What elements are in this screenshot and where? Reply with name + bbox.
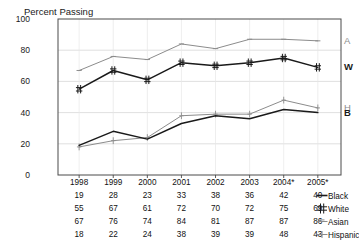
marker-hispanic-2004* bbox=[282, 97, 286, 104]
legend-marker-asian-icon bbox=[316, 216, 328, 227]
table-row: 5567617270727569 bbox=[0, 204, 359, 215]
series-letter-a: A bbox=[344, 35, 350, 46]
series-letter-b: B bbox=[344, 107, 351, 118]
series-letter-w: W bbox=[344, 61, 353, 72]
table-header-row: 1998199920002001200220032004*2005* bbox=[0, 178, 359, 189]
marker-hispanic-1999 bbox=[111, 137, 115, 144]
chart-screenshot: Percent Passing 100806040200 AWHB 199819… bbox=[0, 0, 359, 240]
legend-label-asian: Asian bbox=[328, 218, 348, 227]
table-row: 1822243839394843 bbox=[0, 230, 359, 240]
legend-marker-black-icon bbox=[316, 190, 328, 201]
plot-frame bbox=[58, 19, 341, 175]
marker-hispanic-2001 bbox=[179, 112, 183, 119]
data-table: 1998199920002001200220032004*2005*192823… bbox=[0, 178, 359, 240]
marker-hispanic-2000 bbox=[145, 134, 149, 141]
legend-label-black: Black bbox=[328, 192, 348, 201]
legend-label-white: White bbox=[328, 205, 349, 214]
series-line-hispanic bbox=[79, 100, 318, 147]
legend-marker-hispanic-icon bbox=[316, 229, 328, 240]
table-row: 1928233338364240 bbox=[0, 191, 359, 202]
marker-hispanic-2003 bbox=[247, 111, 251, 118]
legend-marker-white-icon bbox=[316, 203, 328, 214]
table-row: 6776748481878786 bbox=[0, 217, 359, 228]
legend-label-hispanic: Hispanic bbox=[328, 231, 359, 240]
marker-hispanic-2005* bbox=[316, 105, 320, 112]
table-header-2005*: 2005* bbox=[298, 178, 338, 187]
